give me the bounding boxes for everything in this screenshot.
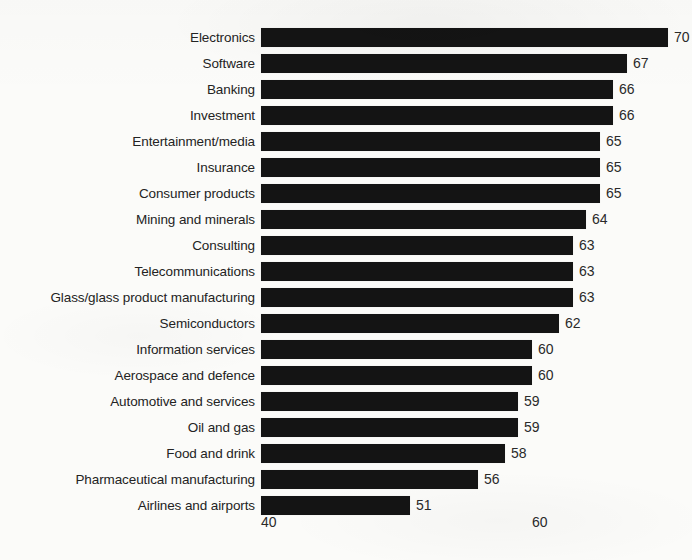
bar-value-label: 67 — [633, 52, 649, 78]
bar — [261, 28, 668, 47]
chart-bar-row: Aerospace and defence60 — [0, 364, 692, 390]
chart-bar-row: Information services60 — [0, 338, 692, 364]
chart-bar-row: Electronics70 — [0, 26, 692, 52]
bar — [261, 80, 613, 99]
bar-value-label: 60 — [538, 364, 554, 390]
bar-category-label: Consulting — [192, 234, 255, 260]
bar — [261, 496, 410, 515]
bar — [261, 444, 505, 463]
bar — [261, 106, 613, 125]
bar — [261, 288, 573, 307]
bar — [261, 210, 586, 229]
chart-bar-row: Investment66 — [0, 104, 692, 130]
chart-bar-row: Automotive and services59 — [0, 390, 692, 416]
bar-category-label: Pharmaceutical manufacturing — [75, 468, 255, 494]
chart-bar-row: Semiconductors62 — [0, 312, 692, 338]
bar-value-label: 65 — [606, 182, 622, 208]
bar — [261, 392, 518, 411]
bar — [261, 184, 600, 203]
bar — [261, 418, 518, 437]
chart-bar-row: Telecommunications63 — [0, 260, 692, 286]
bar-category-label: Automotive and services — [110, 390, 255, 416]
x-axis-tick-label: 40 — [261, 514, 277, 530]
x-axis: 4060 — [0, 514, 692, 544]
bar-category-label: Electronics — [190, 26, 255, 52]
bar — [261, 340, 532, 359]
bar-category-label: Insurance — [197, 156, 255, 182]
bar — [261, 132, 600, 151]
bar-value-label: 64 — [592, 208, 608, 234]
bar-value-label: 70 — [674, 26, 690, 52]
bar — [261, 314, 559, 333]
chart-bar-row: Consumer products65 — [0, 182, 692, 208]
bar-value-label: 60 — [538, 338, 554, 364]
bar-value-label: 59 — [524, 416, 540, 442]
chart-plot-area: Electronics70Software67Banking66Investme… — [0, 26, 692, 520]
chart-bar-row: Entertainment/media65 — [0, 130, 692, 156]
chart-bar-row: Insurance65 — [0, 156, 692, 182]
bar-category-label: Telecommunications — [134, 260, 255, 286]
bar-value-label: 59 — [524, 390, 540, 416]
bar-category-label: Consumer products — [139, 182, 255, 208]
bar — [261, 236, 573, 255]
bar-value-label: 65 — [606, 130, 622, 156]
chart-bar-row: Mining and minerals64 — [0, 208, 692, 234]
bar-value-label: 58 — [511, 442, 527, 468]
bar-category-label: Aerospace and defence — [114, 364, 255, 390]
bar-value-label: 62 — [565, 312, 581, 338]
bar — [261, 262, 573, 281]
chart-bar-row: Food and drink58 — [0, 442, 692, 468]
bar-value-label: 63 — [579, 286, 595, 312]
bar — [261, 470, 478, 489]
chart-bar-row: Oil and gas59 — [0, 416, 692, 442]
bar-value-label: 63 — [579, 260, 595, 286]
bar-value-label: 63 — [579, 234, 595, 260]
chart-bar-row: Software67 — [0, 52, 692, 78]
chart-bar-row: Banking66 — [0, 78, 692, 104]
chart-bar-row: Glass/glass product manufacturing63 — [0, 286, 692, 312]
bar-category-label: Mining and minerals — [136, 208, 255, 234]
x-axis-tick-label: 60 — [532, 514, 548, 530]
bar — [261, 158, 600, 177]
bar-category-label: Glass/glass product manufacturing — [50, 286, 255, 312]
bar-category-label: Investment — [190, 104, 255, 130]
bar — [261, 54, 627, 73]
bar-value-label: 66 — [619, 78, 635, 104]
chart-bar-row: Pharmaceutical manufacturing56 — [0, 468, 692, 494]
bar-category-label: Information services — [136, 338, 255, 364]
bar — [261, 366, 532, 385]
bar-chart: Electronics70Software67Banking66Investme… — [0, 0, 692, 560]
chart-bar-row: Consulting63 — [0, 234, 692, 260]
bar-category-label: Food and drink — [166, 442, 255, 468]
bar-category-label: Semiconductors — [160, 312, 255, 338]
bar-category-label: Software — [203, 52, 255, 78]
bar-category-label: Oil and gas — [188, 416, 255, 442]
bar-category-label: Banking — [207, 78, 255, 104]
bar-value-label: 56 — [484, 468, 500, 494]
bar-value-label: 65 — [606, 156, 622, 182]
bar-category-label: Entertainment/media — [132, 130, 255, 156]
bar-value-label: 66 — [619, 104, 635, 130]
